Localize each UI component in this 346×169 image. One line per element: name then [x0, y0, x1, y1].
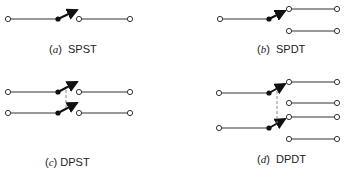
caption-b: (b) SPDT — [257, 43, 305, 55]
switch-diagrams — [0, 0, 346, 169]
caption-d: (d) DPDT — [257, 153, 306, 165]
caption-letter: c — [49, 156, 54, 168]
caption-letter: a — [53, 43, 59, 55]
dpdt-switch — [216, 79, 339, 141]
caption-letter: b — [261, 43, 267, 55]
spdt-switch — [217, 6, 339, 33]
caption-name: DPDT — [276, 153, 306, 165]
caption-a: (a) SPST — [49, 43, 97, 55]
caption-name: SPDT — [276, 43, 305, 55]
dpst-switch — [5, 82, 132, 116]
caption-name: SPST — [68, 43, 97, 55]
caption-letter: d — [261, 153, 267, 165]
spst-switch — [5, 10, 132, 22]
caption-c: (c) DPST — [45, 156, 90, 168]
caption-name: DPST — [60, 156, 89, 168]
